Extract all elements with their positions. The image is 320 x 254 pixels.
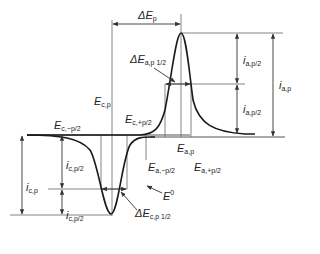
label-delta-ec-half: ΔEc,p 1/2 xyxy=(135,208,171,220)
label-ic-half-top: ic,p/2 xyxy=(66,160,84,172)
label-e-c-minus: Ec,−p/2 xyxy=(54,120,81,132)
label-ia-half-top: ia,p/2 xyxy=(243,55,261,67)
cv-curve-cathodic xyxy=(27,135,155,214)
label-e-a-plus: Ea,+p/2 xyxy=(194,162,221,174)
label-e0: E0 xyxy=(163,189,174,202)
label-ia-full: ia,p xyxy=(279,80,291,92)
label-ia-half-bottom: ia,p/2 xyxy=(243,104,261,116)
label-e-cp: Ec,p xyxy=(94,96,111,108)
label-e-a-minus: Ea,−p/2 xyxy=(148,162,175,174)
label-delta-ep: ΔEp xyxy=(138,10,157,22)
e0-pointer xyxy=(147,186,162,193)
label-ic-half-bottom: ic,p/2 xyxy=(66,210,84,222)
label-e-ap: Ea,p xyxy=(177,143,194,155)
label-e-c-plus: Ec,+p/2 xyxy=(125,114,152,126)
label-ic-full: ic,p xyxy=(26,182,38,194)
label-delta-ea-half: ΔEa,p 1/2 xyxy=(130,54,166,66)
